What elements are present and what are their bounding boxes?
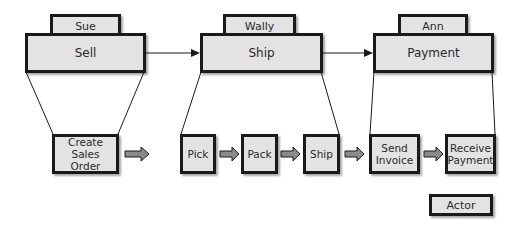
decomposition-lines-sell — [26, 72, 144, 134]
actor-tab-ann: Ann — [398, 14, 468, 35]
step-arrow-icon — [281, 147, 300, 161]
phase-arrow-ship-payment — [322, 49, 373, 57]
step-arrow-icon — [125, 147, 149, 161]
legend-actor: Actor — [429, 194, 493, 216]
phase-box-sell: Sell — [25, 33, 146, 73]
step-box-create-sales-order: Create Sales Order — [52, 134, 119, 174]
step-box-ship: Ship — [303, 134, 340, 174]
step-box-receive-payment: Receive Payment — [445, 134, 496, 174]
phase-arrow-sell-ship — [145, 49, 200, 57]
actor-tab-sue: Sue — [50, 14, 121, 35]
step-arrow-icon — [345, 147, 364, 161]
phase-box-payment: Payment — [373, 33, 494, 73]
step-arrow-icon — [424, 147, 443, 161]
phase-box-ship: Ship — [200, 33, 323, 73]
decomposition-lines-ship — [181, 72, 339, 134]
step-box-send-invoice: Send Invoice — [369, 134, 420, 174]
step-arrow-icon — [220, 147, 239, 161]
decomposition-lines-payment — [370, 72, 495, 134]
step-box-pick: Pick — [180, 134, 216, 174]
actor-tab-wally: Wally — [223, 14, 296, 35]
step-box-pack: Pack — [241, 134, 278, 174]
